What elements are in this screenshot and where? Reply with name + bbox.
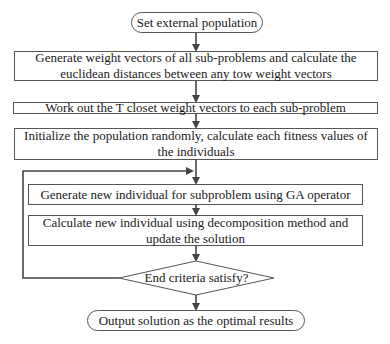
process-decomposition-update: Calculate new individual using decomposi…	[28, 215, 363, 246]
start-terminator: Set external population	[131, 12, 263, 33]
process-closest-weight-vectors: Work out the T closet weight vectors to …	[13, 102, 378, 114]
decision-label: End criteria satisfy?	[119, 268, 274, 288]
process-initialize-population: Initialize the population randomly, calc…	[14, 128, 378, 160]
process-generate-weight-vectors: Generate weight vectors of all sub-probl…	[14, 51, 378, 81]
end-terminator: Output solution as the optimal results	[87, 310, 305, 331]
process-ga-operator: Generate new individual for subproblem u…	[28, 184, 363, 205]
